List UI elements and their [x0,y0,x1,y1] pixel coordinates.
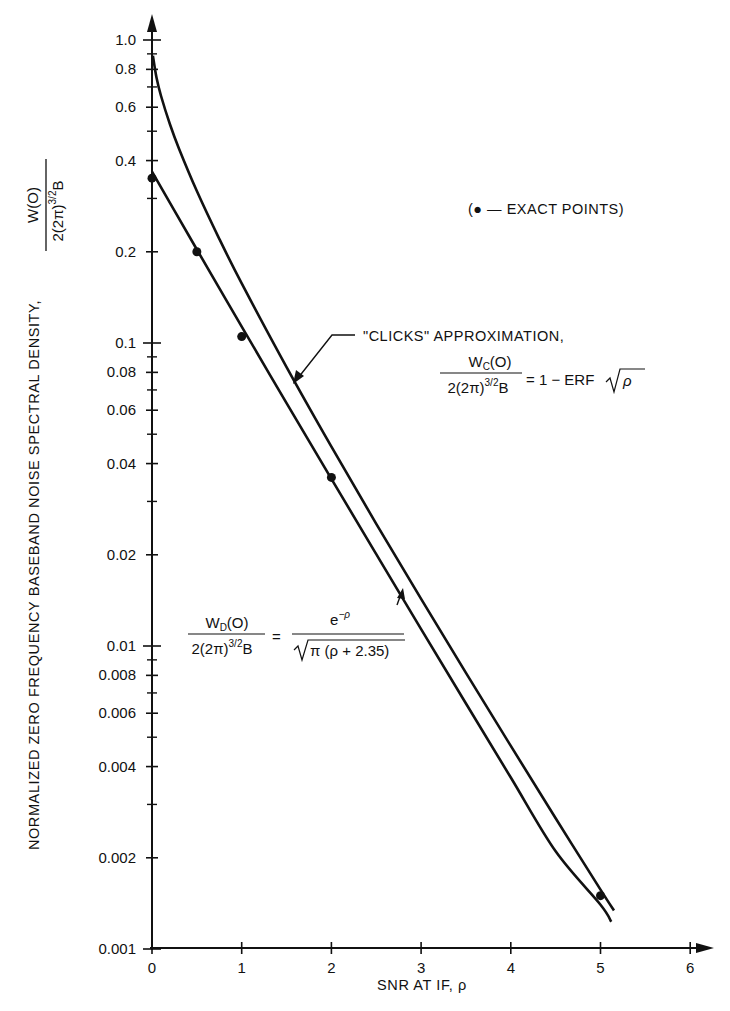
clicks-formula-denominator: 2(2π)3/2B [448,377,509,396]
x-tick-label: 6 [686,959,694,976]
y-tick-label: 0.02 [107,546,136,563]
wd-formula-denominator: 2(2π)3/2B [192,638,253,657]
y-tick-label: 0.002 [98,849,136,866]
exact-point-marker [192,247,201,256]
wd-formula-rhs-denominator: π (ρ + 2.35) [310,642,389,659]
y-tick-label: 0.004 [98,758,136,775]
clicks-formula-numerator: WC(O) [468,353,511,372]
y-axis-title: NORMALIZED ZERO FREQUENCY BASEBAND NOISE… [26,300,42,850]
exact-point-marker [327,473,336,482]
clicks-approximation-curve [153,56,614,911]
axes [147,14,714,953]
y-tick-label: 0.04 [107,455,136,472]
wd-formula-rhs-numerator: e−ρ [330,609,350,628]
x-tick-label: 3 [417,959,425,976]
x-tick-label: 2 [327,959,335,976]
curves [152,56,614,922]
y-tick-label: 0.1 [115,334,136,351]
exact-point-marker [596,891,605,900]
y-tick-label: 0.08 [107,363,136,380]
y-tick-label: 0.01 [107,637,136,654]
x-tick-label: 4 [507,959,515,976]
y-axis-fraction: W(O) 2(2π)3/2B [24,159,66,251]
y-axis-title-group: NORMALIZED ZERO FREQUENCY BASEBAND NOISE… [26,300,42,850]
exact-point-marker [237,332,246,341]
wd-formula: WD(O) 2(2π)3/2B = e−ρ π (ρ + 2.35) [188,609,405,660]
y-tick-label: 0.6 [115,98,136,115]
x-axis-title: SNR AT IF, ρ [377,977,467,993]
legend-exact-points: (● — EXACT POINTS) [468,201,624,217]
clicks-leader-line [298,335,355,378]
wd-formula-numerator: WD(O) [205,614,248,633]
clicks-formula: WC(O) 2(2π)3/2B = 1 − ERF ρ [440,353,645,396]
clicks-formula-rho: ρ [622,372,632,389]
clicks-formula-rhs: = 1 − ERF [526,371,594,388]
x-tick-label: 5 [596,959,604,976]
y-tick-label: 0.8 [115,60,136,77]
clicks-label: "CLICKS" APPROXIMATION, [363,328,564,344]
y-tick-label: 0.4 [115,152,136,169]
y-tick-label: 0.008 [98,666,136,683]
chart: 1.00.80.60.40.20.10.080.060.040.020.010.… [0,0,730,1011]
exact-point-marker [148,174,157,183]
y-tick-label: 0.06 [107,401,136,418]
y-tick-label: 0.2 [115,243,136,260]
y-fraction-denominator: 2(2π)3/2B [47,181,66,242]
x-tick-label: 0 [148,959,156,976]
y-tick-label: 1.0 [115,31,136,48]
y-tick-label: 0.006 [98,704,136,721]
x-axis-arrow-icon [696,943,714,953]
wd-curve [152,172,611,922]
y-tick-label: 0.001 [98,940,136,957]
wd-formula-equals: = [272,628,281,645]
y-fraction-numerator: W(O) [24,187,41,223]
x-tick-label: 1 [238,959,246,976]
y-axis-arrow-icon [147,14,157,32]
